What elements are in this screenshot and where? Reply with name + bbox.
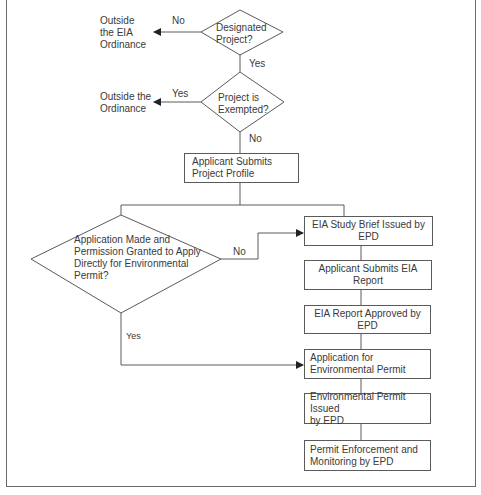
box-submits-project-profile: Applicant Submits Project Profile: [184, 153, 299, 183]
decision-direct-application-text: Application Made and Permission Granted …: [74, 234, 201, 282]
box-eia-study-brief-text: EIA Study Brief Issued by EPD: [308, 219, 429, 243]
box-environmental-permit-issued: Environmental Permit Issued by EPD: [304, 393, 431, 424]
box-eia-report-approved: EIA Report Approved by EPD: [304, 305, 431, 334]
edge-label-d2-yes: Yes: [172, 88, 188, 100]
box-submits-eia-report-text: Applicant Submits EIA Report: [308, 263, 428, 287]
edge-label-d3-no: No: [233, 246, 246, 258]
box-submits-project-profile-text: Applicant Submits Project Profile: [192, 156, 272, 180]
box-application-environmental-permit-text: Application for Environmental Permit: [310, 352, 406, 376]
decision-exempted-text: Project is Exempted?: [218, 92, 269, 116]
terminal-outside-eia-ordinance: Outside the EIA Ordinance: [100, 15, 146, 51]
box-submits-eia-report: Applicant Submits EIA Report: [304, 260, 432, 290]
terminal-outside-ordinance: Outside the Ordinance: [100, 91, 151, 115]
edge-label-d1-yes: Yes: [249, 58, 265, 70]
edge-label-d1-no: No: [172, 15, 185, 27]
box-environmental-permit-issued-text: Environmental Permit Issued by EPD: [310, 391, 425, 427]
edge-label-d3-yes: Yes: [126, 330, 141, 342]
box-application-environmental-permit: Application for Environmental Permit: [304, 349, 431, 379]
box-permit-enforcement-text: Permit Enforcement and Monitoring by EPD: [310, 444, 418, 468]
box-permit-enforcement: Permit Enforcement and Monitoring by EPD: [304, 440, 431, 471]
box-eia-report-approved-text: EIA Report Approved by EPD: [308, 308, 427, 332]
decision-designated-text: Designated Project?: [216, 22, 267, 46]
box-eia-study-brief: EIA Study Brief Issued by EPD: [304, 216, 433, 246]
figure-caption-cropped: [4, 489, 304, 495]
edge-label-d2-no: No: [249, 133, 262, 145]
